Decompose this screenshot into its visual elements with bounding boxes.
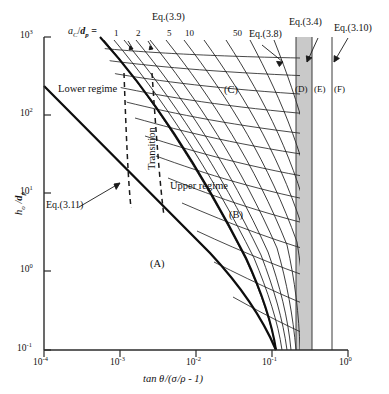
- x-tick-label-1e-2: 10-2: [186, 358, 201, 368]
- x-tick-label-1e-3: 10-3: [110, 358, 125, 368]
- x-tick-label-1e-1: 10-1: [262, 358, 277, 368]
- curve-value-50: 50: [233, 29, 242, 38]
- curve-value-5: 5: [167, 29, 172, 38]
- label-eq-3-8: Eq.(3.8): [249, 29, 282, 39]
- curve-value-1: 1: [114, 29, 119, 38]
- label-region-b: (B): [229, 210, 243, 221]
- label-region-e: (E): [314, 85, 326, 94]
- x-axis-title: tan θ /(σ /ρ - 1): [143, 374, 203, 385]
- y-axis-title: ho /dp: [14, 192, 25, 215]
- curve-value-2: 2: [136, 29, 141, 38]
- y-tick-label-100: 102: [20, 109, 33, 119]
- label-eq-3-10: Eq.(3.10): [334, 23, 372, 33]
- label-eq-3-4: Eq.(3.4): [289, 17, 322, 27]
- label-region-f: (F): [334, 85, 345, 94]
- label-region-c: (C): [224, 85, 238, 96]
- figure-container: 103 102 101 100 10-1 10-4 10-3 10-2 10-1…: [0, 0, 389, 394]
- label-lower-regime: Lower regime: [58, 84, 117, 95]
- y-tick-label-0-1: 10-1: [17, 344, 32, 354]
- label-eq-3-9: Eq.(3.9): [152, 12, 185, 22]
- label-eq-3-11: Eq.(3.11): [46, 200, 83, 210]
- y-tick-label-1: 100: [20, 265, 33, 275]
- x-tick-label-1e0: 100: [339, 358, 352, 368]
- curve-parameter-label: aC/dp =: [68, 26, 97, 36]
- y-tick-label-1000: 103: [20, 31, 33, 41]
- chart-canvas: [0, 0, 389, 394]
- label-region-d: (D): [295, 85, 308, 94]
- label-region-a: (A): [150, 259, 165, 270]
- y-tick-marks: [44, 37, 51, 350]
- curve-value-10: 10: [185, 29, 194, 38]
- x-tick-label-1e-4: 10-4: [33, 358, 48, 368]
- dashed-transition-left: [124, 73, 131, 208]
- label-upper-regime: Upper regime: [170, 181, 228, 192]
- label-transition: Transition: [147, 127, 158, 170]
